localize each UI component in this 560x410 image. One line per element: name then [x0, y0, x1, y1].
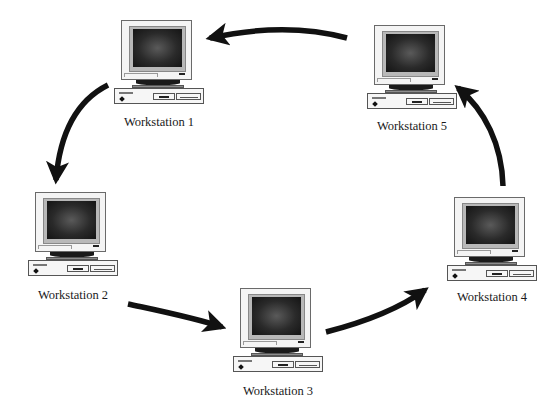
workstation-label: Workstation 2 — [8, 288, 138, 303]
desktop-computer-icon — [233, 288, 323, 370]
monitor — [240, 288, 311, 348]
monitor — [35, 192, 106, 252]
workstation-5[interactable]: Workstation 5 — [367, 25, 457, 107]
workstation-label: Workstation 4 — [427, 290, 557, 305]
arrow-ws2-to-ws3 — [128, 304, 222, 327]
workstation-label: Workstation 1 — [94, 115, 224, 130]
workstation-4[interactable]: Workstation 4 — [447, 197, 537, 279]
system-unit — [447, 265, 537, 281]
arrow-ws1-to-ws2 — [56, 85, 108, 180]
system-unit — [28, 260, 118, 276]
arrow-ws5-to-ws1 — [210, 30, 347, 38]
ring-network-diagram: Workstation 1 Workstation 5 — [0, 0, 560, 410]
monitor — [454, 197, 525, 257]
system-unit — [233, 356, 323, 372]
workstation-label: Workstation 5 — [347, 119, 477, 134]
system-unit — [114, 88, 204, 104]
arrow-ws4-to-ws5 — [458, 88, 503, 186]
system-unit — [367, 93, 457, 109]
desktop-computer-icon — [114, 20, 204, 102]
workstation-2[interactable]: Workstation 2 — [28, 192, 118, 274]
workstation-label: Workstation 3 — [213, 384, 343, 399]
desktop-computer-icon — [28, 192, 118, 274]
desktop-computer-icon — [367, 25, 457, 107]
monitor — [374, 25, 445, 85]
workstation-3[interactable]: Workstation 3 — [233, 288, 323, 370]
desktop-computer-icon — [447, 197, 537, 279]
workstation-1[interactable]: Workstation 1 — [114, 20, 204, 102]
arrow-ws3-to-ws4 — [326, 290, 425, 332]
monitor — [121, 20, 192, 80]
